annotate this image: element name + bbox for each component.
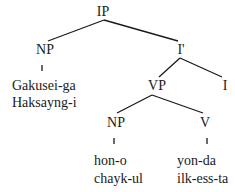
node-i-bar: I' bbox=[177, 42, 184, 58]
verb-word-japanese: yon-da bbox=[177, 153, 216, 169]
node-object-np: NP bbox=[107, 115, 125, 131]
node-infl: I bbox=[223, 78, 228, 94]
subject-word-japanese: Gakusei-ga bbox=[12, 78, 76, 94]
edge-ip-ibar bbox=[104, 20, 178, 41]
edge-ibar-i bbox=[180, 58, 222, 77]
node-subject-np: NP bbox=[36, 42, 54, 58]
node-vp: VP bbox=[148, 78, 166, 94]
edge-ip-np bbox=[48, 20, 104, 41]
object-word-japanese: hon-o bbox=[94, 153, 127, 169]
verb-word-korean: ilk-ess-ta bbox=[177, 171, 228, 187]
node-verb: V bbox=[200, 115, 210, 131]
edge-vp-np bbox=[117, 95, 152, 113]
edge-ibar-vp bbox=[159, 58, 180, 77]
object-word-korean: chayk-ul bbox=[94, 171, 143, 187]
edge-vp-v bbox=[152, 95, 203, 113]
subject-word-korean: Haksayng-i bbox=[12, 95, 77, 111]
node-ip: IP bbox=[97, 4, 109, 20]
